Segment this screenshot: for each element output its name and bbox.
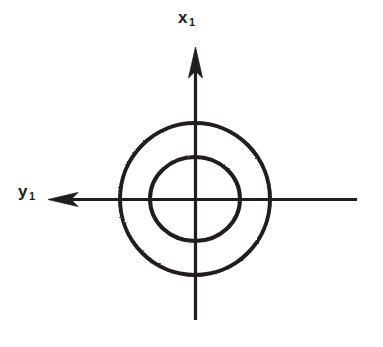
y1-axis	[48, 193, 357, 207]
x1-axis-label-symbol: x	[178, 8, 187, 27]
diagram-svg	[0, 0, 383, 347]
x1-axis	[189, 47, 203, 320]
y1-axis-label-subscript: 1	[29, 190, 35, 202]
y1-axis-label-symbol: y	[18, 182, 27, 201]
x1-axis-label-subscript: 1	[189, 16, 195, 28]
x1-axis-label: x1	[178, 9, 195, 28]
y1-axis-label: y1	[18, 183, 35, 202]
figure-canvas: x1 y1	[0, 0, 383, 347]
